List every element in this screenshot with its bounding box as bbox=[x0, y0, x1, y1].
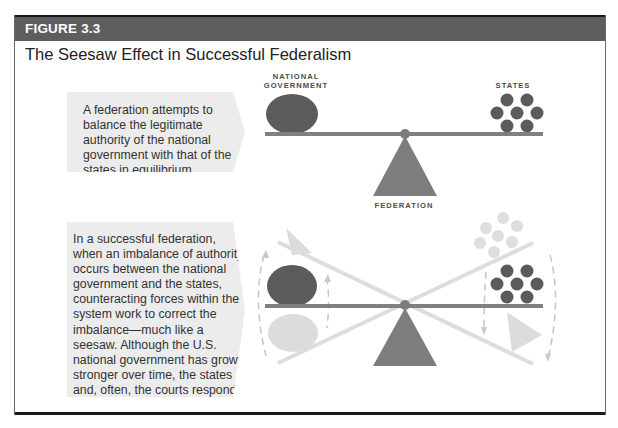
states-cluster-icon bbox=[491, 94, 544, 133]
ghost-national-ball-icon bbox=[268, 314, 318, 352]
arc-arrow-down-inner-icon bbox=[481, 327, 487, 335]
seesaw-equilibrium bbox=[265, 94, 544, 197]
arc-right-outer bbox=[548, 255, 556, 358]
arc-arrow-up-inner-icon bbox=[324, 274, 331, 282]
national-government-ball-icon bbox=[266, 94, 318, 134]
ghost-arrow-down-right-icon bbox=[507, 312, 542, 352]
arc-arrow-up-icon bbox=[262, 250, 269, 258]
ghost-arrow-up-left-icon bbox=[286, 228, 312, 255]
fulcrum-triangle-icon bbox=[373, 136, 437, 196]
arc-arrow-down-icon bbox=[545, 353, 551, 362]
national-government-ball-icon-2 bbox=[267, 265, 317, 307]
seesaw-counterbalance bbox=[258, 212, 555, 366]
states-cluster-icon-2 bbox=[491, 265, 544, 304]
seesaw-diagram bbox=[0, 0, 618, 428]
arc-left-outer bbox=[258, 255, 266, 356]
arc-left-inner bbox=[327, 278, 329, 328]
fulcrum-triangle-icon-2 bbox=[373, 308, 437, 366]
arc-right-inner bbox=[484, 272, 486, 330]
